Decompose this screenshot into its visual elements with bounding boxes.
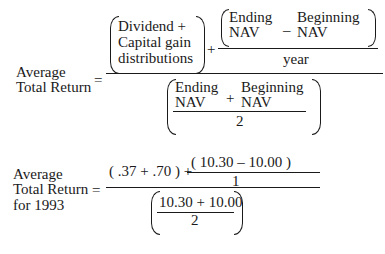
lhs-average: Average <box>13 166 63 182</box>
plus-sign: + <box>226 91 234 106</box>
beginning-text: Beginning <box>297 10 360 25</box>
main-fraction-bar <box>106 73 383 74</box>
divisor-2: 2 <box>191 213 199 228</box>
left-paren <box>221 9 229 47</box>
right-paren <box>234 191 243 235</box>
nav-sum: 10.30 + 10.00 <box>159 195 242 210</box>
right-paren <box>312 79 321 135</box>
fraction-bar <box>173 111 306 112</box>
ending-text: Ending <box>229 10 272 25</box>
lhs-total-return: Total Return <box>16 79 91 95</box>
plus-sign: + <box>207 42 215 57</box>
nav-text: NAV <box>241 95 272 110</box>
nav-text: NAV <box>297 25 328 40</box>
divisor-2: 2 <box>236 114 244 129</box>
distributions-text: distributions <box>118 51 193 66</box>
year-text: year <box>283 52 309 67</box>
lhs-average: Average <box>16 64 66 80</box>
lhs-total-return: Total Return <box>13 181 88 197</box>
fraction-bar <box>187 172 320 173</box>
lhs-for-1993: for 1993 <box>13 197 64 213</box>
dividend-text: Dividend + <box>118 19 186 34</box>
right-paren <box>196 16 205 74</box>
main-fraction-bar <box>106 187 320 188</box>
equals-sign: = <box>92 182 100 198</box>
ending-text: Ending <box>175 80 218 95</box>
right-paren <box>368 9 376 47</box>
equals-sign: = <box>94 72 102 88</box>
minus-sign: – <box>283 23 291 38</box>
nav-text: NAV <box>175 95 206 110</box>
nav-difference: ( 10.30 – 10.00 ) <box>191 155 291 170</box>
fraction-bar <box>218 48 378 49</box>
dividends-sum: ( .37 + .70 ) + <box>109 164 192 179</box>
nav-text: NAV <box>229 25 260 40</box>
beginning-text: Beginning <box>241 80 304 95</box>
capital-gain-text: Capital gain <box>118 35 191 50</box>
